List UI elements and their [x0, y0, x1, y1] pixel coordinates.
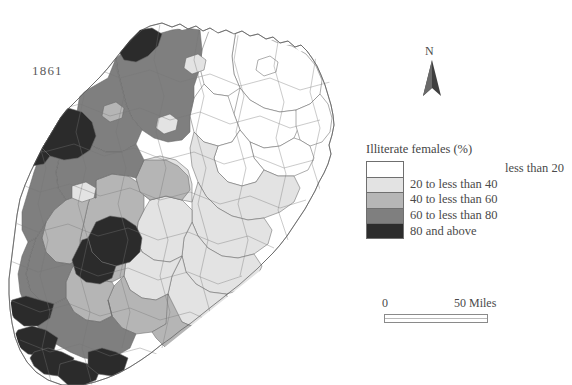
scale-bar-zero-label: 0 [382, 296, 388, 311]
legend-swatch [366, 192, 404, 208]
scale-bar: 0 50 Miles [382, 296, 500, 311]
legend-swatch [366, 161, 404, 177]
legend-label: 80 and above [410, 224, 566, 239]
legend-row: 40 to less than 60 [366, 192, 566, 208]
legend-row: 20 to less than 40 [366, 177, 566, 193]
scale-bar-rule-divider [385, 318, 487, 319]
legend-label: 20 to less than 40 [410, 177, 566, 192]
legend-row: 60 to less than 80 [366, 208, 566, 224]
ireland-choropleth-map [0, 0, 360, 385]
legend-label: 40 to less than 60 [410, 192, 566, 207]
legend-swatch [366, 177, 404, 193]
scale-bar-labels: 0 50 Miles [382, 296, 500, 311]
scale-bar-rule [384, 314, 488, 323]
north-arrow-label: N [425, 44, 434, 59]
legend-title: Illiterate females (%) [366, 142, 566, 157]
north-arrow: N [414, 44, 450, 98]
map-figure: 1861 [0, 0, 572, 385]
north-arrow-glyph [414, 58, 450, 98]
legend-row: 80 and above [366, 223, 566, 239]
legend-label: less than 20 [410, 161, 566, 176]
scale-bar-max-label: 50 Miles [454, 296, 496, 311]
legend-row: less than 20 [366, 161, 566, 177]
legend-swatch [366, 223, 404, 239]
district-fills [8, 28, 332, 385]
legend-label: 60 to less than 80 [410, 208, 566, 223]
legend-swatch [366, 208, 404, 224]
legend: Illiterate females (%) less than 20 20 t… [366, 142, 566, 239]
